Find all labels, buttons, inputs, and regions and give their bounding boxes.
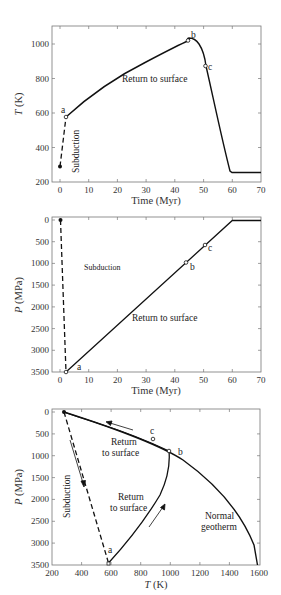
y-tick-label: 1000	[31, 39, 50, 49]
return-path	[66, 221, 261, 373]
x-tick-label: 40	[170, 185, 180, 195]
y-tick-label: 2500	[31, 324, 50, 334]
return-path	[66, 38, 261, 173]
y-tick-label: 3000	[31, 538, 50, 548]
y-tick-label: 3500	[31, 560, 50, 570]
label-c: c	[150, 426, 154, 436]
y-tick-label: 0	[45, 407, 50, 417]
x-tick-label: 20	[113, 375, 123, 385]
y-axis-label: P (MPa)	[13, 277, 25, 314]
subduction-path	[61, 220, 67, 372]
annotation-return-lower: to surface	[110, 503, 147, 513]
x-tick-label: 400	[75, 568, 89, 578]
x-tick-label: 20	[113, 185, 123, 195]
plot-frame	[52, 409, 260, 565]
x-tick-label: 1000	[161, 568, 180, 578]
y-tick-label: 500	[36, 237, 50, 247]
y-tick-label: 200	[36, 177, 50, 187]
x-ticks	[82, 409, 230, 565]
plot-frame	[52, 26, 261, 182]
y-tick-label: 2000	[31, 494, 50, 504]
annotation-return-upper: Return	[111, 437, 137, 447]
y-tick-label: 3000	[31, 345, 50, 355]
label-b: b	[190, 262, 195, 272]
y-tick-label: 2000	[31, 302, 50, 312]
y-tick-label: 500	[36, 429, 50, 439]
chart-temperature-vs-time: 0 10 20 30 40 50 60 70 200 400 600 800 1…	[13, 26, 266, 207]
annotation-return: Return to surface	[132, 313, 197, 323]
y-tick-label: 1500	[31, 473, 50, 483]
x-axis-label: Time (Myr)	[131, 385, 181, 397]
x-tick-label: 60	[228, 185, 238, 195]
chart-pressure-vs-time: 0 10 20 30 40 50 60 70 0 500 1000 1500 2…	[13, 215, 266, 397]
y-tick-label: 1000	[31, 451, 50, 461]
x-tick-label: 10	[84, 375, 94, 385]
y-ticks	[52, 44, 261, 148]
label-c: c	[208, 243, 212, 253]
point-b	[184, 261, 188, 265]
x-tick-label: 1400	[220, 568, 239, 578]
x-tick-label: 600	[104, 568, 118, 578]
annotation-return: Return to surface	[122, 74, 187, 84]
annotation-normal-geotherm: Normal	[205, 511, 234, 521]
x-ticks	[60, 26, 232, 182]
point-c	[151, 437, 155, 441]
point-c	[203, 243, 207, 247]
label-a: a	[61, 105, 66, 115]
x-tick-label: 30	[142, 185, 152, 195]
label-a: a	[108, 545, 113, 555]
x-tick-label: 70	[257, 375, 267, 385]
x-tick-label: 30	[142, 375, 152, 385]
y-ticks	[52, 220, 261, 350]
y-tick-label: 400	[36, 143, 50, 153]
x-tick-label: 50	[199, 185, 209, 195]
x-tick-label: 0	[58, 375, 63, 385]
point-a	[64, 370, 68, 374]
y-tick-label: 3500	[31, 367, 50, 377]
chart-pressure-vs-temperature: 200 400 600 800 1000 1200 1400 1600 0 50…	[13, 407, 269, 591]
start-point	[62, 410, 66, 414]
annotation-return-lower: Return	[118, 492, 144, 502]
point-b	[167, 449, 171, 453]
annotation-subduction: Subduction	[84, 263, 120, 272]
x-tick-label: 0	[58, 185, 63, 195]
x-tick-label: 60	[228, 375, 238, 385]
y-tick-label: 0	[45, 215, 50, 225]
annotation-subduction: Subduction	[71, 129, 81, 173]
label-a: a	[77, 362, 82, 372]
y-tick-label: 600	[36, 108, 50, 118]
annotation-normal-geotherm: geotherm	[201, 522, 237, 532]
x-tick-label: 70	[257, 185, 267, 195]
label-b: b	[178, 447, 183, 457]
label-c: c	[208, 62, 212, 72]
start-point	[58, 165, 62, 169]
y-tick-label: 1000	[31, 258, 50, 268]
x-ticks	[60, 217, 232, 372]
annotation-subduction: Subduction	[62, 474, 72, 518]
y-tick-label: 800	[36, 74, 50, 84]
annotation-return-upper: to surface	[102, 448, 139, 458]
x-tick-label: 50	[199, 375, 209, 385]
start-point	[59, 218, 63, 222]
x-tick-label: 40	[170, 375, 180, 385]
x-axis-label: Time (Myr)	[131, 195, 181, 207]
arrowhead-icon	[106, 421, 112, 426]
y-tick-label: 2500	[31, 516, 50, 526]
y-axis-label: T (K)	[13, 92, 25, 116]
plot-frame	[52, 217, 261, 372]
x-tick-label: 1200	[191, 568, 210, 578]
y-tick-label: 1500	[31, 280, 50, 290]
point-b	[186, 39, 190, 43]
point-a	[107, 562, 110, 565]
point-a	[64, 115, 68, 119]
figure: 0 10 20 30 40 50 60 70 200 400 600 800 1…	[0, 0, 281, 595]
point-c	[204, 64, 208, 68]
subduction-path	[60, 117, 66, 167]
y-axis-label: P (MPa)	[13, 469, 25, 506]
x-axis-label: T (K)	[144, 579, 168, 591]
x-tick-label: 800	[134, 568, 148, 578]
normal-geotherm	[64, 412, 258, 565]
label-b: b	[191, 30, 196, 40]
x-tick-label: 10	[84, 185, 94, 195]
arrowhead-icon	[81, 481, 86, 488]
